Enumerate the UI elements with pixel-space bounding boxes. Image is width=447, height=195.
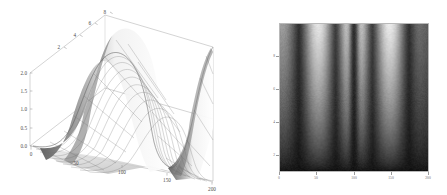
z-tick-label: 0.5 xyxy=(21,125,28,131)
x-tick-label: 200 xyxy=(208,186,216,192)
density-x-tick xyxy=(316,172,317,175)
density-x-label: 100 xyxy=(351,176,356,180)
density-heatmap-canvas xyxy=(280,24,428,171)
density-y-tick xyxy=(276,122,279,123)
x-tick-label: 0 xyxy=(30,151,33,157)
density-x-label: 0 xyxy=(278,176,280,180)
density-x-label: 150 xyxy=(388,176,393,180)
density-y-label: 4 xyxy=(267,120,275,124)
density-x-tick xyxy=(354,172,355,175)
y-axis: 2 4 6 8 xyxy=(57,9,112,50)
z-axis: 2.0 1.5 1.0 0.5 0.0 xyxy=(21,70,33,149)
z-tick-label: 2.0 xyxy=(21,70,28,76)
z-tick-label: 0.0 xyxy=(21,143,28,149)
z-tick-label: 1.5 xyxy=(21,88,28,94)
density-x-tick xyxy=(391,172,392,175)
density-x-label: 200 xyxy=(425,176,430,180)
density-x-tick xyxy=(428,172,429,175)
density-y-label: 6 xyxy=(267,87,275,91)
density-plot: 0 50 100 150 200 2 4 6 8 xyxy=(276,19,434,179)
x-tick-label: 50 xyxy=(73,160,79,166)
density-y-tick xyxy=(276,56,279,57)
density-y-label: 8 xyxy=(267,54,275,58)
x-tick-label: 150 xyxy=(163,177,171,183)
y-tick-label: 4 xyxy=(73,32,76,38)
z-tick-label: 1.0 xyxy=(21,106,28,112)
surface-3d-plot: 2.0 1.5 1.0 0.5 0.0 2 4 6 8 xyxy=(0,0,230,195)
density-x-label: 50 xyxy=(314,176,318,180)
surface-3d-canvas: 2.0 1.5 1.0 0.5 0.0 2 4 6 8 xyxy=(0,0,230,195)
y-tick-label: 8 xyxy=(103,9,106,15)
density-y-label: 2 xyxy=(267,153,275,157)
y-tick-label: 2 xyxy=(57,44,60,50)
density-plot-frame xyxy=(279,23,429,172)
density-y-tick xyxy=(276,89,279,90)
y-tick-label: 6 xyxy=(88,20,91,26)
surface-mesh xyxy=(33,28,213,182)
density-x-tick xyxy=(279,172,280,175)
density-y-tick xyxy=(276,155,279,156)
figure-container: 2.0 1.5 1.0 0.5 0.0 2 4 6 8 xyxy=(0,0,447,195)
x-tick-label: 100 xyxy=(118,169,126,175)
